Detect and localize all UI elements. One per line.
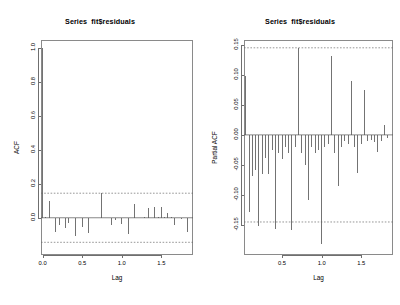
y-axis-tick-label: 0.6 bbox=[30, 104, 36, 126]
x-axis-tick-label: 0.0 bbox=[34, 260, 52, 266]
y-axis-tick bbox=[241, 225, 244, 226]
y-axis-tick-label: 0.00 bbox=[233, 123, 239, 145]
x-axis-tick-label: 0.5 bbox=[73, 260, 91, 266]
pacf-panel: Series fit$residuals Partial ACF Lag 0.5… bbox=[200, 0, 400, 305]
bar-series bbox=[43, 48, 188, 236]
pacf-plot-title: Series fit$residuals bbox=[200, 17, 400, 26]
y-axis-tick-label: 0.2 bbox=[30, 172, 36, 194]
pacf-x-axis-label: Lag bbox=[244, 274, 393, 281]
y-axis-tick-label: 0.05 bbox=[233, 93, 239, 115]
y-axis-tick-label: 0.8 bbox=[30, 70, 36, 92]
x-axis-tick-label: 1.0 bbox=[313, 260, 331, 266]
acf-plot-canvas bbox=[41, 40, 193, 255]
y-axis-tick-label: 0.15 bbox=[233, 33, 239, 55]
acf-panel: Series fit$residuals ACF Lag 0.00.51.01.… bbox=[0, 0, 200, 305]
y-axis-tick-label: -0.10 bbox=[233, 183, 239, 205]
acf-y-axis-label: ACF bbox=[13, 117, 20, 177]
acf-x-axis-label: Lag bbox=[41, 274, 193, 281]
y-axis-tick-label: 0.10 bbox=[233, 63, 239, 85]
x-axis-tick-label: 1.0 bbox=[113, 260, 131, 266]
x-axis-spine bbox=[282, 255, 361, 256]
x-axis-tick-label: 1.5 bbox=[352, 260, 370, 266]
y-axis-tick-label: -0.05 bbox=[233, 153, 239, 175]
x-axis-tick bbox=[161, 255, 162, 258]
y-axis-tick-label: -0.15 bbox=[233, 213, 239, 235]
pacf-plot-canvas bbox=[244, 40, 393, 255]
x-axis-tick-label: 0.5 bbox=[273, 260, 291, 266]
x-axis-tick-label: 1.5 bbox=[152, 260, 170, 266]
y-axis-spine bbox=[241, 45, 242, 225]
y-axis-tick-label: 0.4 bbox=[30, 138, 36, 160]
x-axis-tick bbox=[361, 255, 362, 258]
bar-series bbox=[246, 48, 388, 244]
y-axis-tick-label: 1.0 bbox=[30, 36, 36, 58]
y-axis-spine bbox=[38, 48, 39, 217]
figure-root: Series fit$residuals ACF Lag 0.00.51.01.… bbox=[0, 0, 400, 305]
y-axis-tick-label: 0.0 bbox=[30, 206, 36, 228]
y-axis-tick bbox=[38, 218, 41, 219]
x-axis-spine bbox=[43, 255, 162, 256]
pacf-y-axis-label: Partial ACF bbox=[211, 117, 218, 177]
acf-plot-title: Series fit$residuals bbox=[0, 17, 200, 26]
